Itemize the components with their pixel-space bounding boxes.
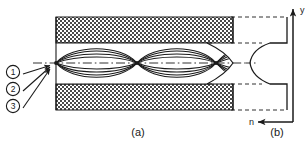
refractive-index-profile-curve [250, 17, 287, 110]
figure-canvas: 1 2 3 (a) [0, 0, 308, 144]
panel-a: 1 2 3 (a) [6, 17, 246, 138]
panel-a-caption: (a) [131, 126, 144, 138]
ray-number-3: 3 [6, 99, 19, 112]
input-ray-3 [23, 69, 50, 108]
n-axis-label: n [249, 117, 254, 127]
lower-cladding [56, 84, 233, 110]
upper-cladding [56, 17, 233, 43]
input-ray-2 [23, 67, 50, 91]
ray-number-2-label: 2 [11, 84, 16, 94]
core-region [56, 43, 233, 84]
focal-node-entry [54, 61, 58, 65]
input-ray-1 [23, 66, 50, 75]
ray-number-1-label: 1 [11, 67, 16, 77]
panel-b: y n (b) [231, 5, 305, 138]
ray-number-3-label: 3 [11, 101, 16, 111]
ray-number-1: 1 [6, 65, 19, 78]
tie-lines [231, 17, 287, 110]
panel-b-caption: (b) [270, 126, 283, 138]
input-rays [23, 66, 50, 109]
focal-node-middle [135, 61, 139, 65]
y-axis-label: y [300, 5, 305, 15]
grin-fiber-figure: 1 2 3 (a) [0, 0, 308, 144]
lower-cladding-region [56, 84, 233, 110]
upper-cladding-region [56, 17, 233, 43]
ray-number-2: 2 [6, 82, 19, 95]
focal-node-exit [214, 61, 218, 65]
